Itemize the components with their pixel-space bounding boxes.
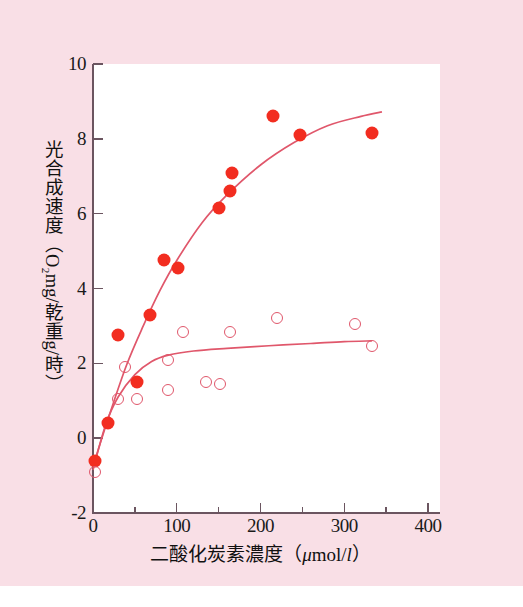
data-point-filled [143, 308, 156, 321]
data-point-filled [267, 110, 280, 123]
x-axis-tick-label: 100 [163, 515, 190, 537]
figure-panel: -20246810 0100200300400 二酸化炭素濃度（μmol/l） … [0, 0, 523, 586]
x-axis-unit-mol: mol/ [312, 544, 347, 565]
y-axis-title-open-paren: （ [42, 235, 62, 254]
y-axis-tick [93, 437, 103, 438]
data-point-filled [365, 127, 378, 140]
x-axis-title-text: 二酸化炭素濃度 [150, 544, 283, 565]
data-point-open [177, 326, 189, 338]
x-axis-unit-mu: μ [302, 544, 312, 565]
data-point-open [200, 376, 212, 388]
data-point-filled [102, 417, 115, 430]
y-axis-tick [93, 363, 103, 364]
y-axis-unit-dry-weight: 乾重 [42, 303, 62, 341]
y-axis-title-close-paren: ） [42, 374, 62, 393]
x-axis-tick [427, 503, 428, 513]
x-axis-minor-tick [302, 507, 303, 513]
y-axis-tick [93, 63, 103, 64]
data-point-filled [212, 202, 225, 215]
data-point-open [162, 384, 174, 396]
y-axis-unit-g: g/ [42, 341, 62, 355]
data-point-filled [158, 254, 171, 267]
data-point-open [131, 393, 143, 405]
x-axis-tick [92, 503, 93, 513]
data-point-open [366, 340, 378, 352]
x-axis-minor-tick [218, 507, 219, 513]
x-axis-tick [344, 503, 345, 513]
y-axis-unit-hour: 時 [42, 355, 62, 374]
y-axis-tick-label: -2 [71, 502, 86, 524]
x-axis-title-close-paren: ） [352, 544, 371, 565]
data-point-open [89, 466, 101, 478]
data-point-filled [130, 376, 143, 389]
y-axis-tick-label: 10 [68, 53, 86, 75]
x-axis-tick-label: 400 [415, 515, 442, 537]
data-point-filled [223, 185, 236, 198]
y-axis-unit-mg: mg/ [42, 274, 62, 303]
x-axis-minor-tick [134, 507, 135, 513]
data-point-open [224, 326, 236, 338]
data-point-open [162, 354, 174, 366]
x-axis-tick [176, 503, 177, 513]
data-point-open [349, 318, 361, 330]
data-point-open [119, 361, 131, 373]
data-point-open [112, 393, 124, 405]
y-axis-tick-label: 2 [77, 352, 86, 374]
y-axis-title-text: 光合成速度 [42, 140, 62, 235]
data-point-filled [293, 129, 306, 142]
y-axis-tick [93, 213, 103, 214]
data-point-open [271, 312, 283, 324]
x-axis-tick-label: 0 [89, 515, 98, 537]
y-axis-unit-o2: O₂ [42, 254, 62, 274]
x-axis-line [92, 512, 440, 514]
data-point-filled [112, 329, 125, 342]
x-axis-tick-label: 200 [247, 515, 274, 537]
y-axis-tick [93, 138, 103, 139]
data-point-filled [172, 261, 185, 274]
x-axis-title-open-paren: （ [283, 544, 302, 565]
y-axis-title: 光合成速度（O₂mg/乾重g/時） [33, 140, 61, 393]
y-axis-tick-label: 4 [77, 278, 86, 300]
y-axis-tick-label: 8 [77, 128, 86, 150]
y-axis-tick-label: 0 [77, 427, 86, 449]
x-axis-minor-tick [385, 507, 386, 513]
y-axis-tick [93, 288, 103, 289]
data-point-open [214, 378, 226, 390]
x-axis-tick-label: 300 [331, 515, 358, 537]
data-point-filled [226, 166, 239, 179]
y-axis-tick-label: 6 [77, 203, 86, 225]
x-axis-tick [260, 503, 261, 513]
x-axis-title: 二酸化炭素濃度（μmol/l） [93, 539, 428, 566]
